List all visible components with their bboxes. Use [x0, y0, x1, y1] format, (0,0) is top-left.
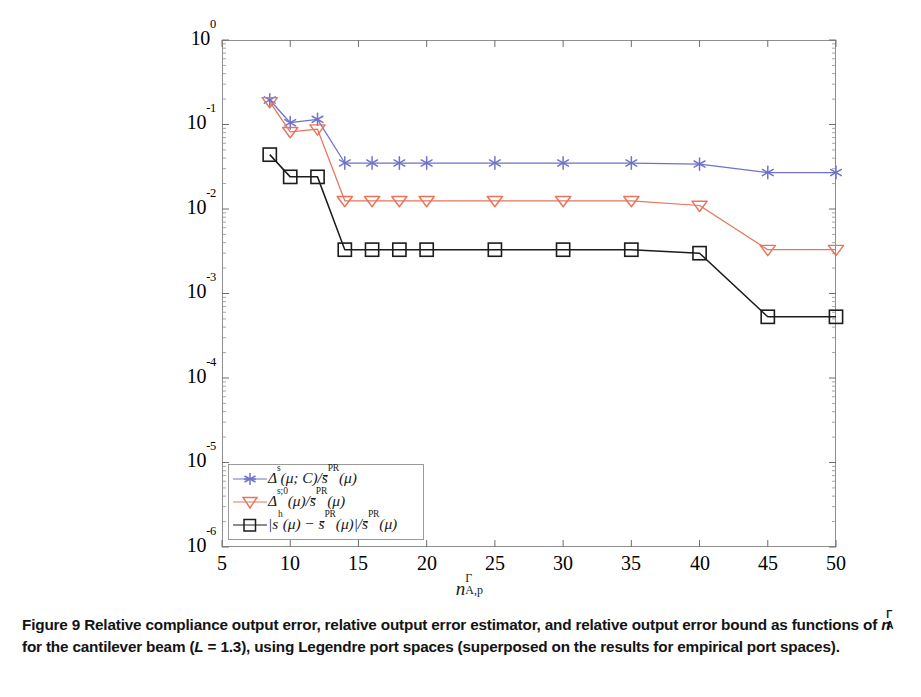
chart-svg	[0, 0, 921, 610]
legend-marker-asterisk-icon	[232, 469, 268, 489]
caption-text-part1: Relative compliance output error, relati…	[84, 616, 881, 633]
legend-marker-square-icon	[232, 515, 268, 535]
series-0	[264, 94, 841, 179]
caption-L-value: = 1.3	[204, 638, 242, 655]
legend-label-true-error: |sh(μ) − s̄PR(μ)|/s̄PR(μ)	[268, 515, 397, 533]
caption-symbol-L: L	[194, 638, 203, 655]
figure-caption: Figure 9 Relative compliance output erro…	[22, 614, 900, 658]
legend-row-true-error: |sh(μ) − s̄PR(μ)|/s̄PR(μ)	[229, 513, 423, 536]
caption-symbol-n: nΓA	[881, 614, 896, 636]
legend-label-estimator-zero: Δs;0(μ)/s̄PR(μ)	[268, 492, 345, 510]
caption-text-part3: ), using Legendre port spaces (superpose…	[241, 638, 840, 655]
series-1	[262, 98, 843, 256]
figure-panel: 100 10-1 10-2 10-3 10-4 10-5 10-6 5 10 1…	[0, 0, 921, 610]
legend-marker-triangle-down-icon	[232, 492, 268, 512]
chart-legend: Δs(μ; C)/s̄PR(μ) Δs;0(μ)/s̄PR(μ) |	[228, 464, 424, 540]
series-2	[263, 148, 842, 323]
caption-text-part2: for the cantilever beam (	[22, 638, 194, 655]
caption-figure-label: Figure 9	[22, 616, 80, 633]
legend-label-estimator: Δs(μ; C)/s̄PR(μ)	[268, 469, 357, 487]
figure-page: 100 10-1 10-2 10-3 10-4 10-5 10-6 5 10 1…	[0, 0, 921, 697]
